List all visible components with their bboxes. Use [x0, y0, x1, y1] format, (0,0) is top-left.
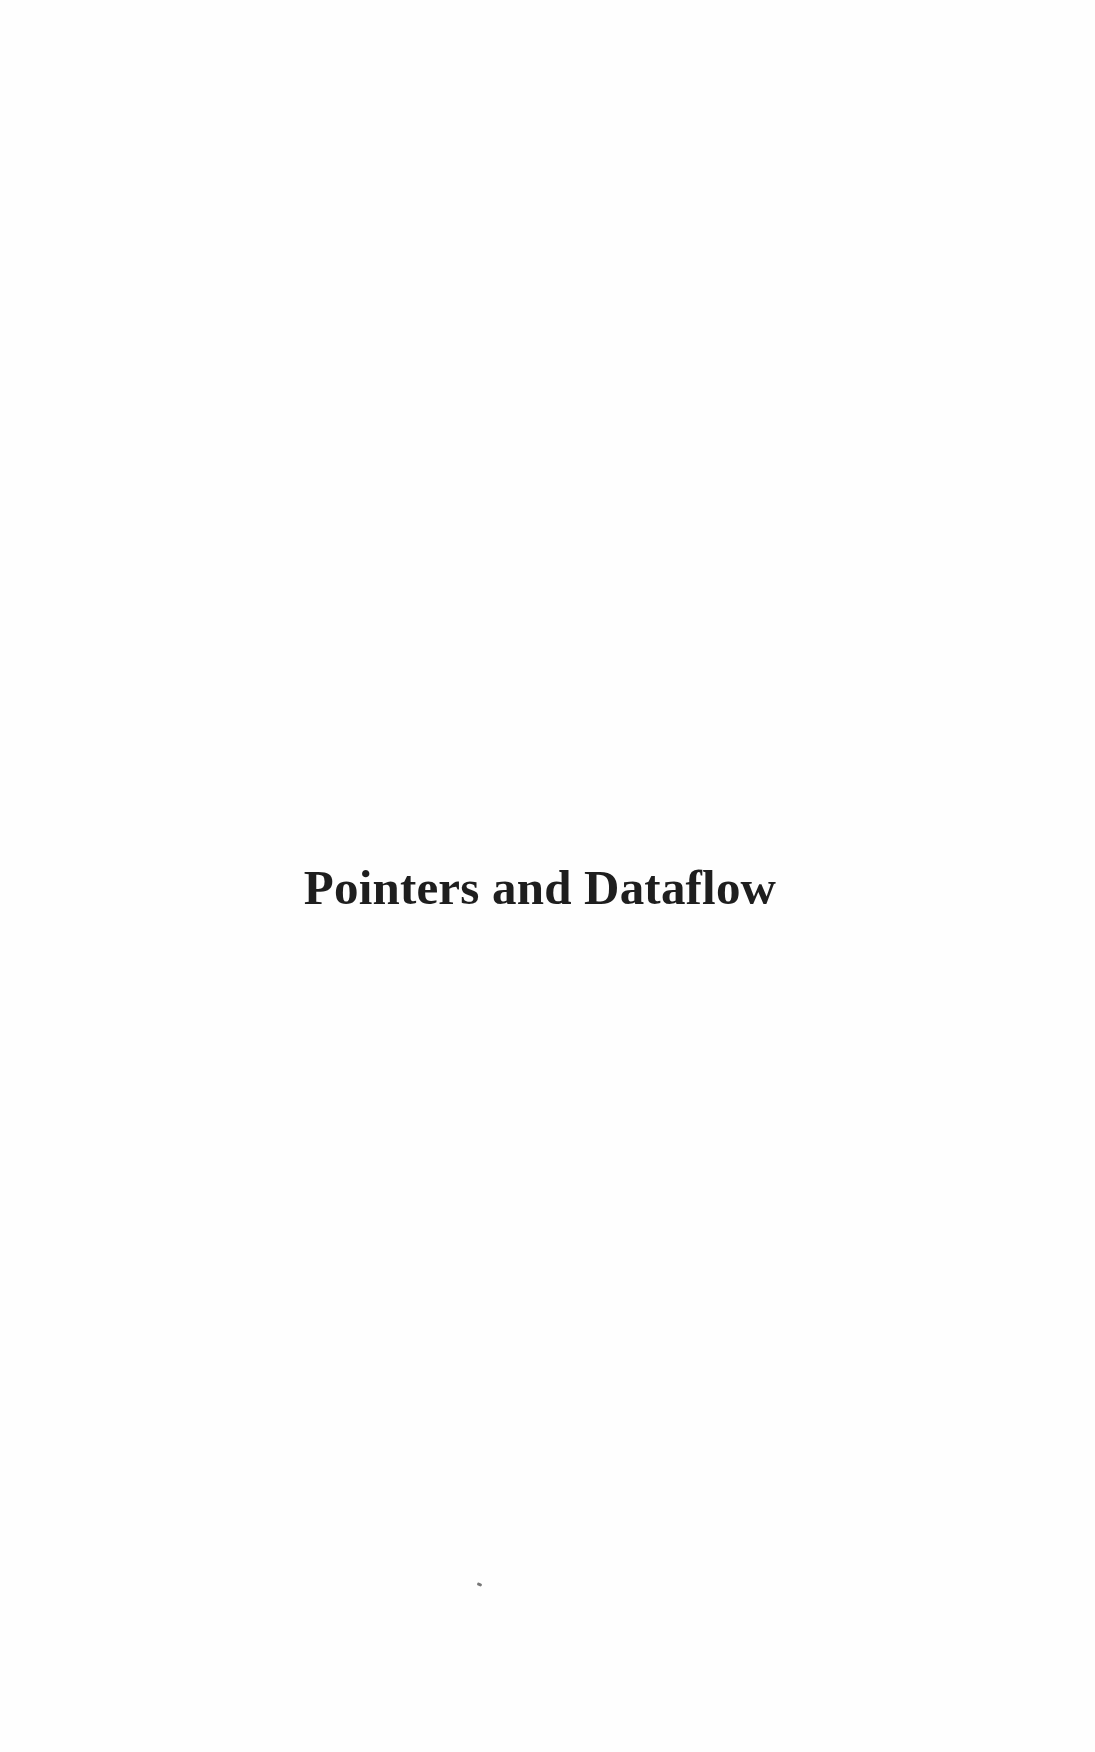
- scan-speck: [477, 1582, 483, 1587]
- book-page: Pointers and Dataflow: [0, 0, 1095, 1752]
- page-title: Pointers and Dataflow: [0, 858, 1080, 918]
